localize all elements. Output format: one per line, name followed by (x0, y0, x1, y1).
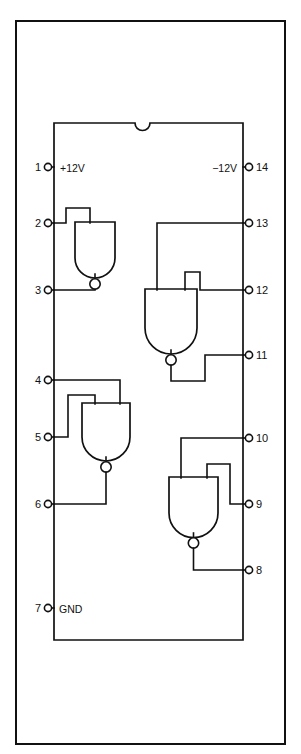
pin-2-terminal (44, 219, 51, 226)
gate-a-input-upper-wire (54, 208, 90, 223)
pin-4-terminal (44, 376, 51, 383)
gate-c-input-b-wire (54, 395, 95, 437)
pin-8-terminal (245, 566, 252, 573)
ic-pinout-schematic: 1 2 3 4 5 6 7 14 13 12 11 10 9 8 +12V −1… (0, 0, 301, 754)
vee-label: −12V (212, 162, 237, 174)
pin-6-terminal (44, 500, 51, 507)
figure-page: 1 2 3 4 5 6 7 14 13 12 11 10 9 8 +12V −1… (0, 0, 301, 754)
gate-a-inversion-bubble (90, 279, 100, 289)
pin-5-terminal (44, 433, 51, 440)
gate-d-input-a-wire (181, 438, 243, 478)
pin-10-terminal (245, 434, 252, 441)
pin-14-number: 14 (256, 161, 268, 173)
pin-3-terminal (44, 286, 51, 293)
gate-d-inversion-bubble (188, 538, 198, 548)
pin-14-terminal (245, 163, 252, 170)
chip-body-outline (54, 123, 243, 640)
vcc-label: +12V (60, 162, 85, 174)
pin-13-number: 13 (256, 217, 268, 229)
gnd-label: GND (59, 603, 83, 615)
pin-11-terminal (245, 351, 252, 358)
gate-c-inversion-bubble (101, 462, 111, 472)
pin-12-terminal (245, 286, 252, 293)
pin-7-terminal (44, 604, 51, 611)
pin-12-number: 12 (256, 284, 268, 296)
pin-2-number: 2 (35, 217, 41, 229)
gate-d-input-b-wire (207, 464, 243, 504)
gate-a-output-wire-to-pin3 (54, 289, 95, 290)
pin-1-terminal (44, 163, 51, 170)
pin-9-terminal (245, 500, 252, 507)
gate-d-body (169, 477, 218, 537)
pin-11-number: 11 (256, 349, 267, 361)
pin-9-number: 9 (256, 498, 262, 510)
pin-5-number: 5 (35, 431, 41, 443)
gate-b-inversion-bubble (166, 355, 176, 365)
pin-1-number: 1 (35, 161, 41, 173)
pin-8-number: 8 (256, 564, 262, 576)
gate-c-input-a-wire (54, 380, 120, 404)
gate-c-body (82, 403, 130, 461)
pin-4-number: 4 (35, 374, 41, 386)
pin-6-number: 6 (35, 498, 41, 510)
pin-3-number: 3 (35, 284, 41, 296)
pin-10-number: 10 (256, 432, 268, 444)
pin-7-number: 7 (35, 602, 41, 614)
pin-13-terminal (245, 219, 252, 226)
gate-d-output-wire-to-pin8 (194, 548, 244, 570)
gate-c-output-wire-to-pin6 (54, 472, 106, 504)
gate-b-output-wire-to-pin11 (171, 355, 243, 381)
gate-b-body (145, 289, 197, 354)
gate-a-body (75, 222, 115, 278)
gate-b-input-b-wire (185, 272, 243, 290)
